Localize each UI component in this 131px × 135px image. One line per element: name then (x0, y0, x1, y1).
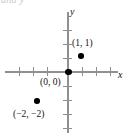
x-axis-tick (82, 67, 83, 76)
x-axis-tick (47, 67, 48, 76)
coordinate-plane-figure: and y y x (1, 1) (0, 0) (−2, −2) (0, 0, 131, 135)
data-point-neg2-neg2 (34, 98, 40, 104)
y-axis-tick (63, 100, 72, 101)
y-axis-tick (63, 58, 72, 59)
x-axis-line (5, 71, 118, 73)
clipped-header-text: and y (1, 0, 24, 5)
y-axis-tick (63, 44, 72, 45)
data-point-origin (65, 69, 72, 76)
y-axis-tick (63, 30, 72, 31)
data-point-label-neg2-neg2: (−2, −2) (13, 109, 44, 119)
data-point-1-1 (78, 53, 84, 59)
data-point-label-origin: (0, 0) (40, 77, 61, 87)
y-axis-tick (63, 128, 72, 129)
x-axis-tick (33, 67, 34, 76)
y-axis-label: y (70, 6, 74, 17)
y-axis-tick (63, 114, 72, 115)
x-axis-label: x (118, 69, 122, 80)
data-point-label-1-1: (1, 1) (72, 38, 93, 48)
x-axis-tick (110, 67, 111, 76)
y-axis-tick (63, 86, 72, 87)
x-axis-tick (19, 67, 20, 76)
x-axis-tick (96, 67, 97, 76)
